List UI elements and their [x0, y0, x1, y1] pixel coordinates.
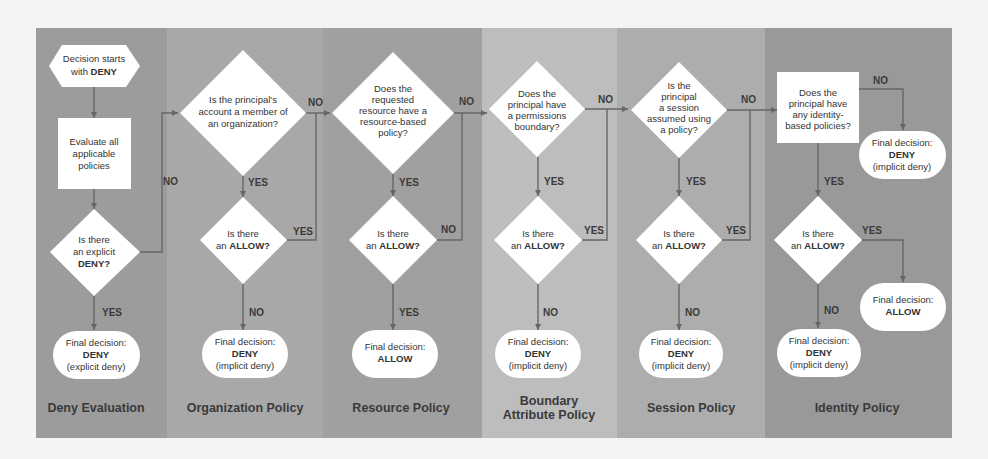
id-yes-label: YES	[824, 176, 844, 187]
bnd-final-3: (implicit deny)	[509, 360, 568, 371]
bnd-q-2: principal have	[508, 99, 567, 110]
id-allow-no-label: NO	[824, 305, 839, 316]
bnd-q-3: a permissions	[508, 110, 567, 121]
id-allow-yes-label: YES	[862, 225, 882, 236]
bnd-allow-2: an ALLOW?	[511, 240, 565, 251]
res-yes-label: YES	[399, 177, 419, 188]
start-label-2: with DENY	[70, 66, 118, 77]
bnd-q-1: Does the	[518, 88, 556, 99]
org-allow-yes-label: YES	[293, 226, 313, 237]
ses-allow-1: Is there	[663, 228, 695, 239]
column-title-boundary-1: Boundary	[520, 394, 578, 408]
column-title-session-policy: Session Policy	[647, 401, 735, 415]
id-no-final-1: Final decision:	[872, 137, 933, 148]
org-q-1: Is the principal's	[209, 94, 277, 105]
org-allow-2: an ALLOW?	[216, 240, 270, 251]
ses-allow-2: an ALLOW?	[652, 240, 706, 251]
deny-final-3: (explicit deny)	[67, 361, 126, 372]
id-allow-final-1: Final decision:	[873, 294, 934, 305]
column-title-resource-policy: Resource Policy	[352, 401, 449, 415]
id-no-final-2: DENY	[889, 149, 916, 160]
id-no-label: NO	[873, 75, 888, 86]
org-final-1: Final decision:	[215, 336, 276, 347]
ses-final-3: (implicit deny)	[652, 360, 711, 371]
res-final-1: Final decision:	[365, 341, 426, 352]
id-final-2: DENY	[806, 347, 833, 358]
res-allow-no-label: NO	[441, 224, 456, 235]
res-q-3: resource have a	[359, 105, 428, 116]
ses-q-1: Is the	[667, 80, 690, 91]
deny-final-1: Final decision:	[66, 337, 127, 348]
res-allow-yes-label: YES	[399, 307, 419, 318]
id-q-3: any identity-	[792, 109, 843, 120]
res-q-1: Does the	[374, 83, 412, 94]
start-label-1: Decision starts	[63, 53, 126, 64]
ses-q-3: a session	[659, 102, 699, 113]
org-yes-label: YES	[248, 177, 268, 188]
ses-q-5: a policy?	[660, 124, 698, 135]
deny-final-2: DENY	[83, 349, 110, 360]
bnd-yes-label: YES	[544, 176, 564, 187]
bnd-allow-yes-label: YES	[584, 225, 604, 236]
column-title-organization-policy: Organization Policy	[187, 401, 304, 415]
org-q-2: account a member of	[198, 106, 288, 117]
ses-q-2: principal	[661, 91, 696, 102]
deny-q-1: Is there	[78, 234, 110, 245]
res-allow-1: Is there	[377, 228, 409, 239]
ses-yes-label: YES	[686, 176, 706, 187]
res-q-5: policy?	[378, 127, 408, 138]
eval-label-3: policies	[78, 160, 110, 171]
org-allow-no-label: NO	[249, 307, 264, 318]
column-title-identity-policy: Identity Policy	[815, 401, 900, 415]
deny-q-2: an explicit	[73, 246, 116, 257]
bnd-allow-no-label: NO	[543, 307, 558, 318]
eval-label-1: Evaluate all	[69, 136, 118, 147]
column-title-boundary-2: Attribute Policy	[503, 408, 595, 422]
org-final-3: (implicit deny)	[216, 360, 275, 371]
org-final-2: DENY	[232, 348, 259, 359]
id-allow-1: Is there	[802, 228, 834, 239]
id-q-1: Does the	[799, 87, 837, 98]
eval-label-2: applicable	[73, 148, 116, 159]
id-q-4: based policies?	[785, 120, 851, 131]
id-allow-2: an ALLOW?	[791, 240, 845, 251]
ses-final-2: DENY	[668, 348, 695, 359]
org-q-3: an organization?	[208, 118, 278, 129]
bnd-allow-1: Is there	[522, 228, 554, 239]
policy-evaluation-flowchart: Decision starts with DENY Evaluate all a…	[0, 0, 988, 459]
deny-yes-label: YES	[102, 307, 122, 318]
id-final-3: (implicit deny)	[790, 359, 849, 370]
ses-allow-yes-label: YES	[726, 225, 746, 236]
ses-allow-no-label: NO	[685, 307, 700, 318]
res-q-2: requested	[372, 94, 414, 105]
deny-no-label: NO	[163, 176, 178, 187]
id-no-final-3: (implicit deny)	[873, 161, 932, 172]
deny-q-3: DENY?	[78, 258, 110, 269]
ses-final-1: Final decision:	[651, 336, 712, 347]
res-q-4: resource-based	[360, 116, 426, 127]
id-allow-final-2: ALLOW	[886, 306, 921, 317]
res-allow-2: an ALLOW?	[366, 240, 420, 251]
id-q-2: principal have	[789, 98, 848, 109]
org-no-label: NO	[308, 97, 323, 108]
res-final-2: ALLOW	[378, 353, 413, 364]
bnd-final-1: Final decision:	[508, 336, 569, 347]
ses-no-label: NO	[741, 94, 756, 105]
column-title-deny-evaluation: Deny Evaluation	[47, 401, 144, 415]
id-final-1: Final decision:	[789, 335, 850, 346]
bnd-no-label: NO	[598, 94, 613, 105]
ses-q-4: assumed using	[647, 113, 711, 124]
bnd-final-2: DENY	[525, 348, 552, 359]
res-no-label: NO	[459, 96, 474, 107]
org-allow-1: Is there	[227, 228, 259, 239]
bnd-q-4: boundary?	[515, 121, 560, 132]
